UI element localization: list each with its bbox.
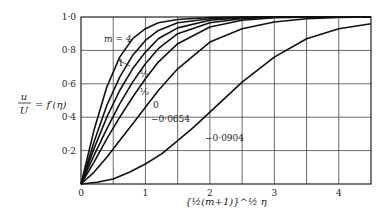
x-axis-label: {½(m+1)}^½ η bbox=[185, 196, 267, 207]
curve-label: 0 bbox=[153, 100, 159, 110]
x-tick-label: 4 bbox=[336, 188, 342, 198]
x-tick-label: 3 bbox=[271, 188, 277, 198]
curve-label: −0·0654 bbox=[151, 114, 190, 124]
svg-text:u: u bbox=[21, 91, 27, 102]
falkner-skan-velocity-profile-chart: 012340·20·40·60·81·0 m = 41⅓⅑0−0·0654−0·… bbox=[0, 0, 386, 222]
x-tick-label: 0 bbox=[78, 188, 84, 198]
curve-m-0-0904 bbox=[81, 24, 371, 184]
y-tick-label: 1·0 bbox=[62, 12, 77, 22]
y-axis-label-text: = f′(η) bbox=[35, 99, 66, 110]
y-tick-label: 0·6 bbox=[62, 79, 77, 89]
curve-label: m = 4 bbox=[104, 34, 132, 44]
y-tick-label: 0·2 bbox=[62, 146, 76, 156]
curve-label: ⅓ bbox=[140, 69, 149, 79]
y-tick-label: 0·8 bbox=[62, 45, 77, 55]
x-tick-label: 1 bbox=[143, 188, 149, 198]
y-tick-label: 0·4 bbox=[62, 112, 77, 122]
curve-label: ⅑ bbox=[140, 87, 149, 97]
y-axis-label: u U = f′(η) bbox=[18, 91, 66, 116]
curve-label: −0·0904 bbox=[205, 133, 244, 143]
curve-label: 1 bbox=[118, 58, 124, 68]
svg-text:U: U bbox=[20, 105, 29, 116]
